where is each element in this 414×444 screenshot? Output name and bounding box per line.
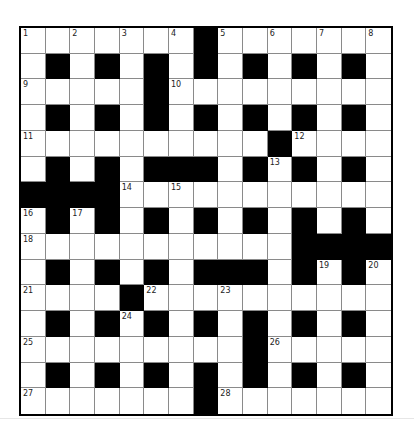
white-cell[interactable] [120, 131, 145, 157]
white-cell[interactable] [243, 131, 268, 157]
white-cell[interactable] [218, 157, 243, 183]
white-cell[interactable] [21, 105, 46, 131]
white-cell[interactable] [342, 182, 367, 208]
white-cell[interactable] [169, 388, 194, 414]
white-cell[interactable] [366, 208, 391, 234]
white-cell[interactable] [218, 131, 243, 157]
white-cell[interactable] [268, 105, 293, 131]
white-cell[interactable] [169, 337, 194, 363]
white-cell[interactable] [169, 260, 194, 286]
white-cell[interactable] [70, 285, 95, 311]
white-cell[interactable] [169, 363, 194, 389]
white-cell[interactable] [317, 208, 342, 234]
white-cell[interactable]: 19 [317, 260, 342, 286]
white-cell[interactable] [95, 131, 120, 157]
white-cell[interactable] [70, 388, 95, 414]
white-cell[interactable]: 25 [21, 337, 46, 363]
white-cell[interactable] [243, 285, 268, 311]
white-cell[interactable] [218, 182, 243, 208]
white-cell[interactable] [366, 54, 391, 80]
white-cell[interactable] [144, 182, 169, 208]
white-cell[interactable]: 11 [21, 131, 46, 157]
white-cell[interactable] [194, 182, 219, 208]
white-cell[interactable]: 24 [120, 311, 145, 337]
white-cell[interactable]: 26 [268, 337, 293, 363]
white-cell[interactable] [194, 337, 219, 363]
white-cell[interactable] [292, 337, 317, 363]
white-cell[interactable]: 12 [292, 131, 317, 157]
white-cell[interactable]: 5 [218, 28, 243, 54]
white-cell[interactable] [342, 388, 367, 414]
white-cell[interactable] [144, 388, 169, 414]
white-cell[interactable] [317, 363, 342, 389]
white-cell[interactable] [144, 337, 169, 363]
white-cell[interactable]: 13 [268, 157, 293, 183]
white-cell[interactable] [218, 337, 243, 363]
white-cell[interactable] [46, 234, 71, 260]
white-cell[interactable] [243, 79, 268, 105]
white-cell[interactable] [70, 157, 95, 183]
white-cell[interactable] [317, 54, 342, 80]
white-cell[interactable]: 1 [21, 28, 46, 54]
white-cell[interactable] [268, 79, 293, 105]
white-cell[interactable] [218, 79, 243, 105]
white-cell[interactable]: 7 [317, 28, 342, 54]
white-cell[interactable] [21, 311, 46, 337]
white-cell[interactable] [120, 388, 145, 414]
white-cell[interactable] [169, 234, 194, 260]
white-cell[interactable] [317, 311, 342, 337]
white-cell[interactable] [169, 105, 194, 131]
white-cell[interactable] [268, 388, 293, 414]
white-cell[interactable] [70, 105, 95, 131]
white-cell[interactable] [120, 54, 145, 80]
white-cell[interactable] [70, 363, 95, 389]
white-cell[interactable] [268, 260, 293, 286]
white-cell[interactable]: 28 [218, 388, 243, 414]
white-cell[interactable] [292, 388, 317, 414]
white-cell[interactable]: 22 [144, 285, 169, 311]
white-cell[interactable]: 16 [21, 208, 46, 234]
white-cell[interactable] [194, 285, 219, 311]
white-cell[interactable] [46, 337, 71, 363]
white-cell[interactable] [70, 131, 95, 157]
white-cell[interactable] [120, 105, 145, 131]
white-cell[interactable] [46, 131, 71, 157]
white-cell[interactable] [317, 285, 342, 311]
white-cell[interactable]: 10 [169, 79, 194, 105]
white-cell[interactable] [46, 79, 71, 105]
white-cell[interactable] [169, 311, 194, 337]
white-cell[interactable] [218, 234, 243, 260]
white-cell[interactable] [218, 54, 243, 80]
white-cell[interactable] [268, 285, 293, 311]
white-cell[interactable] [366, 311, 391, 337]
white-cell[interactable] [194, 131, 219, 157]
white-cell[interactable] [120, 234, 145, 260]
white-cell[interactable] [366, 337, 391, 363]
white-cell[interactable] [120, 157, 145, 183]
white-cell[interactable] [317, 79, 342, 105]
white-cell[interactable]: 2 [70, 28, 95, 54]
white-cell[interactable] [70, 311, 95, 337]
white-cell[interactable] [366, 79, 391, 105]
white-cell[interactable] [46, 388, 71, 414]
white-cell[interactable] [144, 234, 169, 260]
white-cell[interactable] [95, 79, 120, 105]
white-cell[interactable] [46, 285, 71, 311]
white-cell[interactable] [120, 79, 145, 105]
white-cell[interactable] [342, 131, 367, 157]
white-cell[interactable] [317, 388, 342, 414]
white-cell[interactable]: 4 [169, 28, 194, 54]
white-cell[interactable] [342, 285, 367, 311]
white-cell[interactable] [46, 28, 71, 54]
white-cell[interactable] [21, 54, 46, 80]
white-cell[interactable] [218, 363, 243, 389]
white-cell[interactable] [95, 234, 120, 260]
white-cell[interactable] [169, 131, 194, 157]
white-cell[interactable] [268, 234, 293, 260]
white-cell[interactable] [120, 337, 145, 363]
white-cell[interactable]: 6 [268, 28, 293, 54]
white-cell[interactable] [317, 182, 342, 208]
white-cell[interactable]: 21 [21, 285, 46, 311]
white-cell[interactable] [169, 208, 194, 234]
white-cell[interactable]: 23 [218, 285, 243, 311]
